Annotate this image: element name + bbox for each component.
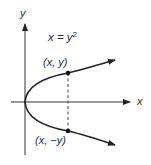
parabola-diagram: y x x = y2 (x, y) (x, −y)	[0, 0, 151, 165]
point-upper-label: (x, y)	[43, 57, 67, 68]
y-axis-label: y	[20, 8, 26, 19]
x-axis-label: x	[137, 96, 143, 107]
parabola-upper-branch	[25, 60, 115, 102]
point-lower-label: (x, −y)	[35, 135, 66, 146]
diagram-graphics	[0, 0, 151, 165]
point-lower	[66, 129, 70, 133]
equation-text: x = y	[48, 31, 73, 43]
point-upper	[66, 71, 70, 75]
equation-exponent: 2	[73, 30, 77, 39]
equation-label: x = y2	[48, 31, 77, 44]
